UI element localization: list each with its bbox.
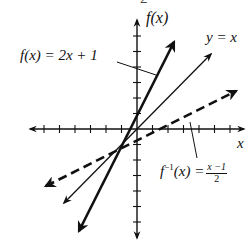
inverse-denominator: 2 <box>206 174 227 185</box>
inverse-function-graph: 2 f(x) x f(x) = 2x + 1 y = x f−1(x) =x −… <box>0 0 252 245</box>
inverse-fraction: x −12 <box>206 162 227 184</box>
inverse-label-leader <box>190 122 197 158</box>
identity-label: y = x <box>206 30 237 45</box>
inverse-function-label: f−1(x) =x −12 <box>160 162 227 184</box>
inverse-argument: (x) = <box>174 163 205 179</box>
inverse-numerator: x −1 <box>206 162 227 174</box>
function-line <box>79 42 174 231</box>
x-axis-label: x <box>237 136 244 151</box>
function-label: f(x) = 2x + 1 <box>20 48 98 63</box>
inverse-superscript: −1 <box>164 162 174 172</box>
y-axis-label: f(x) <box>146 10 168 26</box>
top-fragment-text: 2 <box>140 0 148 6</box>
